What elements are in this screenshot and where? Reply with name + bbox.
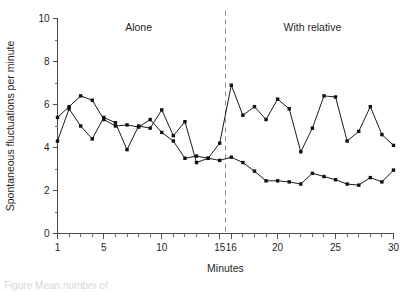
data-point-marker: [148, 118, 151, 121]
figure-caption-fragment: Figure Mean number of: [4, 280, 234, 292]
y-tick-label: 0: [44, 228, 50, 239]
data-point-marker: [334, 178, 337, 181]
data-point-marker: [264, 118, 267, 121]
data-point-marker: [253, 169, 256, 172]
data-point-marker: [369, 176, 372, 179]
data-point-marker: [183, 120, 186, 123]
data-point-marker: [264, 179, 267, 182]
y-tick-label: 10: [38, 13, 50, 24]
x-tick-label: 25: [330, 242, 342, 253]
data-point-marker: [322, 175, 325, 178]
y-tick-label: 8: [44, 56, 50, 67]
data-point-marker: [241, 161, 244, 164]
data-point-marker: [357, 183, 360, 186]
data-point-marker: [299, 150, 302, 153]
data-point-marker: [56, 116, 59, 119]
data-point-marker: [322, 94, 325, 97]
data-point-marker: [125, 148, 128, 151]
y-axis-title: Spontaneous fluctuations per minute: [4, 41, 16, 212]
data-point-marker: [148, 126, 151, 129]
data-point-marker: [195, 161, 198, 164]
data-point-marker: [79, 124, 82, 127]
data-point-marker: [380, 133, 383, 136]
data-point-marker: [299, 182, 302, 185]
y-tick-label: 2: [44, 185, 50, 196]
data-point-marker: [206, 157, 209, 160]
data-point-marker: [288, 180, 291, 183]
data-point-marker: [311, 172, 314, 175]
data-point-marker: [114, 121, 117, 124]
data-point-marker: [183, 157, 186, 160]
data-point-marker: [380, 180, 383, 183]
x-axis-title: Minutes: [207, 262, 244, 274]
data-point-marker: [345, 182, 348, 185]
x-tick-label: 1: [55, 242, 61, 253]
y-tick-label: 4: [44, 142, 50, 153]
x-tick-label: 20: [272, 242, 284, 253]
x-tick-label: 10: [156, 242, 168, 253]
data-point-marker: [311, 126, 314, 129]
line-chart: 024681015101516202530AloneWith relativeM…: [0, 0, 408, 292]
data-point-marker: [56, 139, 59, 142]
data-point-marker: [137, 124, 140, 127]
data-point-marker: [230, 83, 233, 86]
data-point-marker: [345, 139, 348, 142]
figure-container: 024681015101516202530AloneWith relativeM…: [0, 0, 408, 292]
data-point-marker: [160, 108, 163, 111]
data-point-marker: [172, 139, 175, 142]
data-point-marker: [230, 155, 233, 158]
x-tick-label: 30: [388, 242, 400, 253]
data-point-marker: [357, 130, 360, 133]
data-point-marker: [392, 168, 395, 171]
data-point-marker: [160, 131, 163, 134]
data-point-marker: [276, 179, 279, 182]
x-tick-label: 15: [214, 242, 226, 253]
data-point-marker: [253, 105, 256, 108]
x-tick-label: 16: [226, 242, 238, 253]
data-point-marker: [392, 144, 395, 147]
data-point-marker: [172, 134, 175, 137]
data-point-marker: [67, 107, 70, 110]
data-point-marker: [125, 123, 128, 126]
y-tick-label: 6: [44, 99, 50, 110]
data-point-marker: [218, 159, 221, 162]
data-point-marker: [288, 107, 291, 110]
data-point-marker: [91, 137, 94, 140]
annotation-label-1: Alone: [125, 21, 152, 33]
data-point-marker: [276, 97, 279, 100]
data-point-marker: [334, 95, 337, 98]
data-point-marker: [91, 99, 94, 102]
data-point-marker: [218, 142, 221, 145]
x-tick-label: 5: [101, 242, 107, 253]
annotation-label-2: With relative: [284, 21, 342, 33]
data-point-marker: [79, 94, 82, 97]
data-point-marker: [102, 116, 105, 119]
data-point-marker: [369, 105, 372, 108]
data-point-marker: [241, 114, 244, 117]
